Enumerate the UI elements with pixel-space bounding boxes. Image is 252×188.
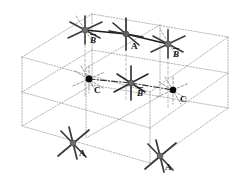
box-edge-bottom-back-right	[92, 85, 228, 108]
box-edge-bottom-back-left	[22, 85, 92, 126]
lattice-diagram-svg: B A B C B C A	[0, 0, 252, 188]
label-bot-left-A: A	[79, 148, 86, 158]
box-edge-top-front-right	[150, 37, 228, 92]
star-hub	[165, 41, 171, 47]
label-top-right-B: B	[172, 49, 179, 59]
star-hub	[123, 31, 129, 37]
star-hub	[128, 80, 134, 86]
label-top-left-B-text: B	[89, 35, 96, 45]
label-mid-center-B: B	[136, 88, 143, 98]
star-hub	[82, 27, 88, 33]
node-top-right-Bbar	[151, 29, 185, 58]
node-top-center-A	[109, 18, 143, 50]
site-labels: B A B C B C A	[79, 35, 187, 172]
label-top-center-A: A	[131, 41, 138, 51]
label-top-center-A-text: A	[131, 41, 138, 51]
figure-container: B A B C B C A	[0, 0, 252, 188]
box-edge-top-back-left	[22, 14, 92, 57]
box-guide-mid-bottom	[86, 96, 160, 138]
box-guide-mid-horizontal-2	[150, 73, 228, 128]
label-top-right-B-text: B	[172, 49, 179, 59]
label-bot-right-A-text: A	[165, 162, 172, 172]
label-top-left-B: B	[89, 35, 96, 45]
label-mid-right-C-text: C	[180, 94, 187, 104]
star-hub	[70, 140, 76, 146]
box-guide-mid-horizontal-4	[22, 50, 92, 92]
node-top-left-Bbar	[68, 16, 102, 44]
star-hub	[157, 153, 163, 159]
label-bot-left-A-text: A	[79, 148, 86, 158]
label-mid-left-C: C	[94, 85, 101, 95]
node-dot	[170, 87, 177, 94]
node-dot	[86, 76, 93, 83]
label-bot-right-A: A	[165, 162, 172, 172]
label-mid-center-B-text: B	[136, 88, 143, 98]
label-mid-right-C: C	[180, 94, 187, 104]
label-mid-left-C-text: C	[94, 85, 101, 95]
